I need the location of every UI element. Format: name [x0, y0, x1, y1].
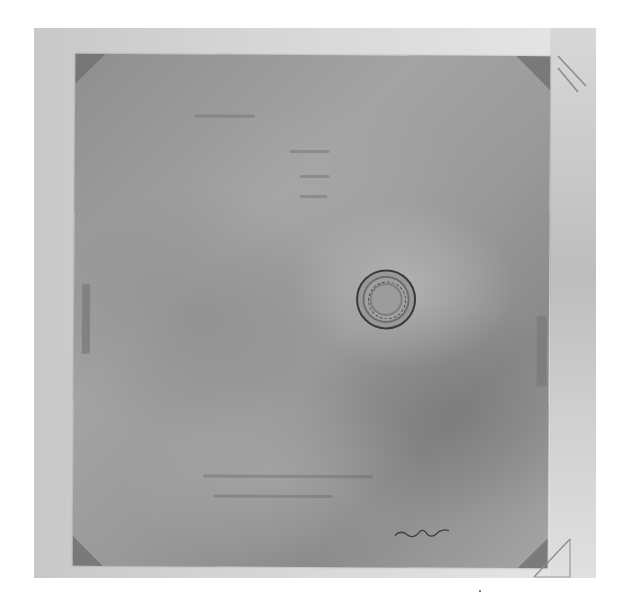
mounting-corner-outline-icon [530, 537, 576, 579]
faded-text-line [300, 175, 330, 178]
mounting-tab-right [537, 316, 547, 386]
signature-flourish-icon [393, 525, 451, 539]
mounting-tab-left [82, 284, 90, 354]
circular-seal-stamp [356, 269, 416, 329]
faded-text-line [213, 494, 333, 498]
faded-text-line [300, 195, 328, 198]
mounting-corner-outline-icon [556, 54, 590, 94]
faded-text-line [195, 114, 255, 117]
backdrop-shadow [550, 28, 596, 578]
faded-text-line [203, 474, 373, 478]
seal-inner-ring [368, 281, 406, 319]
speck [479, 590, 481, 592]
document-paper [73, 54, 551, 568]
mounting-corner-bottom-left [73, 536, 103, 566]
mounting-corner-top-left [75, 54, 105, 84]
mounting-corner-top-right [516, 56, 550, 90]
faded-text-line [290, 150, 330, 153]
